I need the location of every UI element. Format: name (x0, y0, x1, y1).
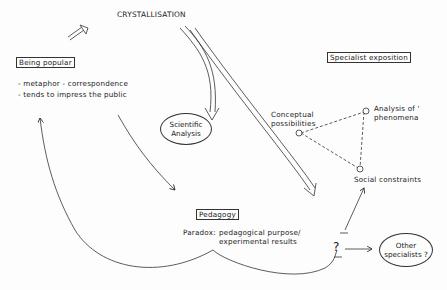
conceptual-line2: possibilities (271, 119, 316, 128)
phenomena-line2: phenomena (374, 113, 420, 122)
arrow-question-to-social-constraints (345, 188, 364, 230)
paradox-label: Paradox: (183, 228, 216, 237)
being-popular-bullet-2: - tends to impress the public (18, 90, 127, 99)
question-mark: ? (333, 240, 340, 254)
diagram-canvas: CRYSTALLISATION Being popular - metaphor… (0, 0, 447, 290)
bracket-curve (213, 250, 337, 274)
social-constraints-label: Social constraints (354, 175, 421, 184)
conceptual-line1: Conceptual (271, 110, 316, 119)
scientific-analysis-line1: Scientific (170, 120, 203, 129)
scientific-analysis-line2: Analysis (170, 129, 203, 138)
paradox-line1: pedagogical purpose/ (219, 228, 301, 237)
hollow-arrow-icon (68, 25, 88, 40)
analysis-of-phenomena-label: Analysis of ' phenomena (374, 104, 420, 122)
scientific-analysis-node: Scientific Analysis (160, 113, 212, 145)
paradox-line2: experimental results (219, 237, 301, 246)
other-specialists-node: Other specialists ? (379, 233, 433, 267)
paradox-text: pedagogical purpose/ experimental result… (219, 228, 301, 246)
phenomena-line1: Analysis of ' (374, 104, 420, 113)
double-arrow-to-scientific-analysis (180, 26, 219, 120)
pedagogy-label: Pedagogy (196, 209, 239, 220)
specialist-exposition-label: Specialist exposition (327, 52, 411, 63)
conceptual-possibilities-label: Conceptual possibilities (271, 110, 316, 128)
being-popular-label: Being popular (16, 57, 75, 68)
being-popular-bullet-1: - metaphor - correspondence (18, 79, 128, 88)
other-specialists-line2: specialists ? (384, 250, 427, 259)
crystallisation-title: CRYSTALLISATION (117, 10, 186, 19)
other-specialists-line1: Other (384, 241, 427, 250)
